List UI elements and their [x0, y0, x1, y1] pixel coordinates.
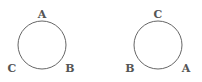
left-diagram: A C B: [8, 8, 75, 75]
left-label-top: A: [37, 8, 47, 21]
right-circle: [134, 21, 182, 69]
left-label-bottom-left: C: [8, 62, 17, 75]
right-label-top: C: [154, 8, 163, 21]
left-label-bottom-right: B: [65, 62, 74, 75]
right-label-bottom-right: A: [181, 62, 191, 75]
right-label-bottom-left: B: [125, 62, 134, 75]
right-diagram: C B A: [125, 8, 190, 75]
left-circle: [18, 21, 66, 69]
diagram-canvas: A C B C B A: [0, 0, 202, 82]
